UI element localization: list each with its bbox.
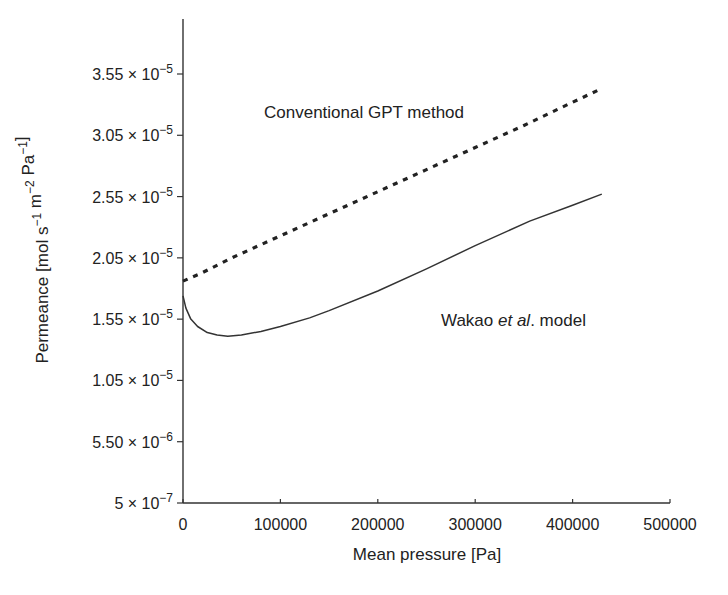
y-tick-label: 5.50 × 10−6 [92,430,173,451]
y-tick-label: 1.05 × 10−5 [92,368,173,389]
y-axis-title: Permeance [mol s−1 m−2 Pa−1] [12,136,52,363]
data-series [183,90,602,336]
x-tick-label: 100000 [254,516,307,533]
x-tick-label: 400000 [546,516,599,533]
annotations: Conventional GPT methodWakao et al. mode… [264,103,586,330]
y-tick-label: 1.55 × 10−5 [92,307,173,328]
x-tick-label: 0 [179,516,188,533]
x-axis-ticks: 0100000200000300000400000500000 [179,499,697,533]
y-axis-ticks: 5 × 10−75.50 × 10−61.05 × 10−51.55 × 10−… [92,62,183,512]
wakao-model-label: Wakao et al. model [441,311,586,330]
x-tick-label: 500000 [643,516,696,533]
gpt-method-label: Conventional GPT method [264,103,464,122]
y-tick-label: 2.05 × 10−5 [92,246,173,267]
y-tick-label: 2.55 × 10−5 [92,185,173,206]
y-tick-label: 3.05 × 10−5 [92,123,173,144]
permeance-chart: 5 × 10−75.50 × 10−61.05 × 10−51.55 × 10−… [0,0,728,595]
x-axis-title: Mean pressure [Pa] [353,545,501,564]
x-tick-label: 300000 [449,516,502,533]
y-tick-label: 3.55 × 10−5 [92,62,173,83]
x-tick-label: 200000 [351,516,404,533]
y-tick-label: 5 × 10−7 [114,491,173,512]
